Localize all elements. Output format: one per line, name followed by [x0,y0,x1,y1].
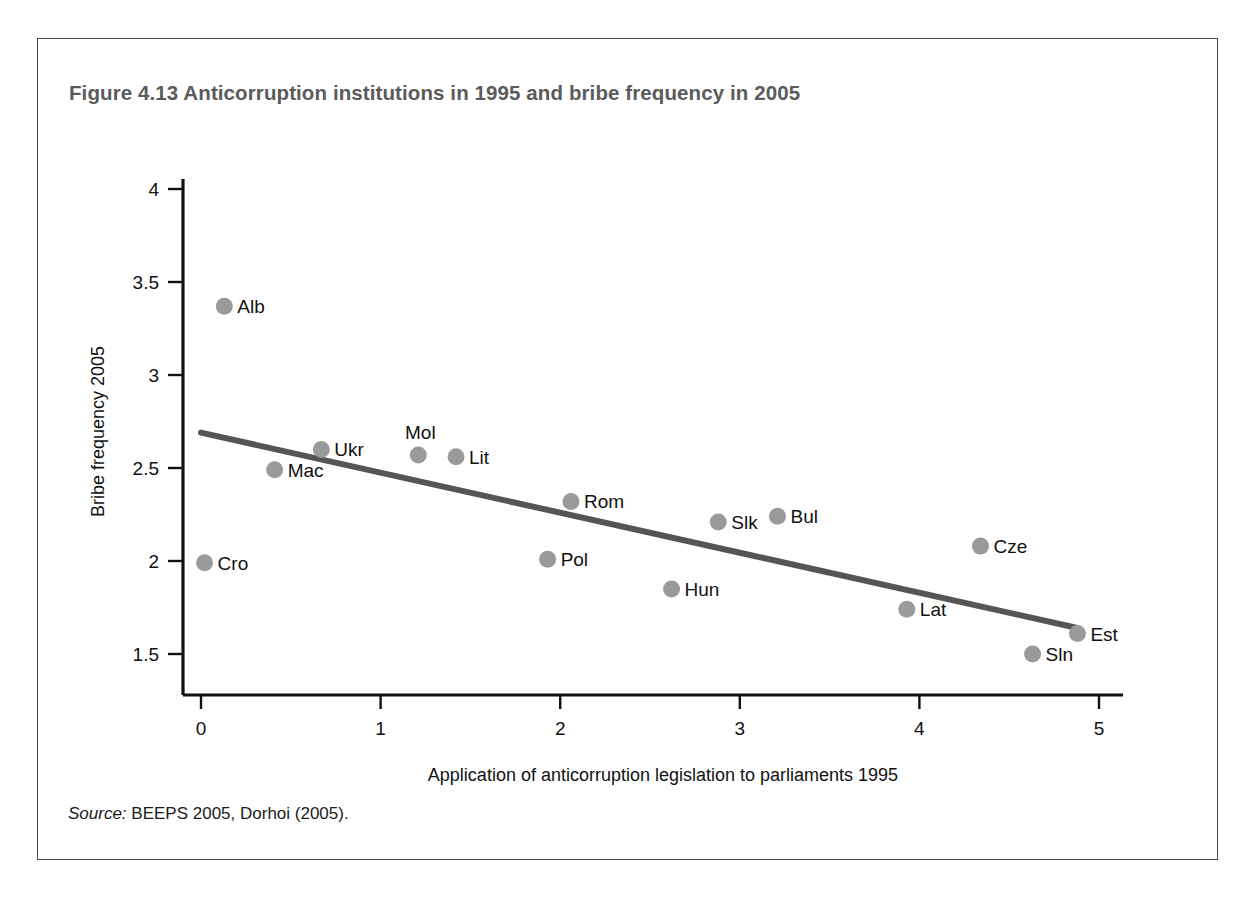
source-label: Source: [68,804,127,823]
data-point-cro[interactable] [196,554,213,571]
source-text: BEEPS 2005, Dorhoi (2005). [127,804,349,823]
y-tick-label: 1.5 [133,644,159,665]
point-label-hun: Hun [685,579,720,600]
y-tick-label: 3 [148,365,159,386]
point-label-rom: Rom [584,491,624,512]
data-point-alb[interactable] [216,298,233,315]
point-label-cze: Cze [993,536,1027,557]
figure-panel: Figure 4.13 Anticorruption institutions … [37,38,1218,860]
point-label-lat: Lat [920,599,947,620]
y-tick-label: 4 [148,179,159,200]
data-point-lat[interactable] [898,601,915,618]
data-point-bul[interactable] [769,508,786,525]
y-tick-label: 2.5 [133,458,159,479]
point-label-est: Est [1090,624,1118,645]
data-point-lit[interactable] [448,448,465,465]
point-label-bul: Bul [791,506,818,527]
data-point-cze[interactable] [972,538,989,555]
point-label-slk: Slk [731,512,758,533]
data-point-ukr[interactable] [313,441,330,458]
x-axis-title: Application of anticorruption legislatio… [428,765,898,785]
point-label-sln: Sln [1046,644,1073,665]
point-label-mac: Mac [288,460,324,481]
data-point-pol[interactable] [539,551,556,568]
x-tick-label: 5 [1094,718,1105,739]
data-point-hun[interactable] [663,580,680,597]
y-axis-title: Bribe frequency 2005 [88,346,108,517]
source-note: Source: BEEPS 2005, Dorhoi (2005). [68,804,349,824]
point-label-lit: Lit [469,447,490,468]
data-point-slk[interactable] [710,513,727,530]
data-point-rom[interactable] [562,493,579,510]
point-label-ukr: Ukr [334,439,364,460]
data-point-est[interactable] [1069,625,1086,642]
x-tick-label: 0 [196,718,207,739]
y-tick-label: 3.5 [133,272,159,293]
x-tick-label: 4 [914,718,925,739]
scatter-plot: 1.522.533.54012345AlbMacUkrMolLitCroPolR… [38,39,1219,861]
x-tick-label: 2 [555,718,566,739]
x-tick-label: 3 [735,718,746,739]
data-point-mac[interactable] [266,461,283,478]
y-tick-label: 2 [148,551,159,572]
data-point-mol[interactable] [410,446,427,463]
point-label-alb: Alb [237,296,264,317]
point-label-pol: Pol [561,549,588,570]
point-label-cro: Cro [218,553,249,574]
data-point-sln[interactable] [1024,646,1041,663]
x-tick-label: 1 [375,718,386,739]
point-label-mol: Mol [405,422,436,443]
